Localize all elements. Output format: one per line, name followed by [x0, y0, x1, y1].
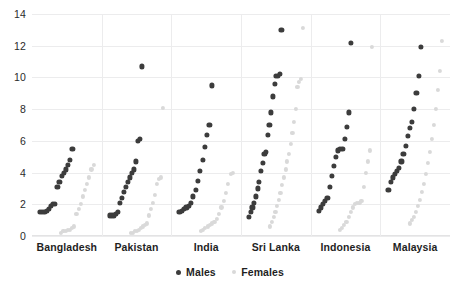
data-point-male [253, 194, 258, 199]
data-point-male [346, 110, 351, 115]
legend-label: Females [241, 266, 284, 278]
data-point-female [424, 172, 428, 176]
data-point-male [265, 132, 270, 137]
data-point-female [359, 199, 363, 203]
data-point-female [273, 210, 277, 214]
data-point-male [202, 145, 207, 150]
data-point-female [285, 159, 289, 163]
data-point-female [292, 120, 296, 124]
data-point-female [76, 207, 80, 211]
legend-item-females[interactable]: Females [232, 266, 284, 278]
data-point-male [205, 132, 210, 137]
gridline-horizontal [32, 236, 450, 237]
data-point-male [63, 167, 68, 172]
y-axis-tick-label: 6 [0, 135, 26, 147]
data-point-female [436, 88, 440, 92]
data-point-male [248, 210, 253, 215]
y-axis-tick-label: 4 [0, 167, 26, 179]
data-point-female [277, 197, 281, 201]
data-point-male [255, 186, 260, 191]
chart-legend: MalesFemales [0, 266, 460, 278]
legend-marker-females-icon [232, 270, 236, 274]
data-point-female [219, 205, 223, 209]
data-point-female [275, 204, 279, 208]
gridline-vertical [171, 14, 172, 236]
data-point-female [364, 170, 368, 174]
data-point-female [272, 215, 276, 219]
data-point-male [119, 195, 124, 200]
data-point-female [440, 39, 444, 43]
y-axis-tick-label: 0 [0, 230, 26, 242]
data-point-male [412, 107, 417, 112]
data-point-female [81, 194, 85, 198]
data-point-female [149, 207, 153, 211]
scatter-chart: 02468101214 BangladeshPakistanIndiaSri L… [0, 0, 460, 288]
data-point-male [193, 187, 198, 192]
data-point-male [207, 122, 212, 127]
data-point-male [121, 189, 126, 194]
data-point-male [57, 179, 62, 184]
data-point-male [125, 179, 130, 184]
data-point-female [282, 175, 286, 179]
category-label-malaysia: Malaysia [393, 241, 438, 253]
data-point-female [368, 148, 372, 152]
data-point-male [115, 210, 120, 215]
data-point-female [294, 107, 298, 111]
data-point-male [399, 159, 404, 164]
data-point-male [348, 40, 353, 45]
gridline-vertical [102, 14, 103, 236]
data-point-female [287, 151, 291, 155]
data-point-female [83, 188, 87, 192]
legend-item-males[interactable]: Males [176, 266, 216, 278]
data-point-female [422, 182, 426, 186]
data-point-male [139, 64, 144, 69]
data-point-male [405, 134, 410, 139]
y-axis-tick-label: 2 [0, 198, 26, 210]
data-point-female [85, 182, 89, 186]
data-point-female [426, 161, 430, 165]
data-point-male [331, 164, 336, 169]
category-label-pakistan: Pakistan [115, 241, 159, 253]
data-point-female [270, 220, 274, 224]
data-point-male [133, 159, 138, 164]
y-axis-tick-label: 10 [0, 71, 26, 83]
y-axis-tick-label: 12 [0, 40, 26, 52]
data-point-male [209, 83, 214, 88]
y-axis-tick-label: 8 [0, 103, 26, 115]
data-point-male [127, 175, 132, 180]
category-axis-labels: BangladeshPakistanIndiaSri LankaIndonesi… [32, 241, 450, 257]
data-point-female [283, 167, 287, 171]
data-point-female [295, 85, 299, 89]
data-point-female [231, 170, 235, 174]
gridline-vertical [380, 14, 381, 236]
data-point-male [68, 157, 73, 162]
data-point-female [159, 175, 163, 179]
data-point-female [290, 131, 294, 135]
data-point-male [340, 146, 345, 151]
data-point-male [66, 162, 71, 167]
data-point-male [191, 194, 196, 199]
data-point-male [327, 184, 332, 189]
data-point-male [401, 151, 406, 156]
gridline-vertical [241, 14, 242, 236]
y-axis-tick-label: 14 [0, 8, 26, 20]
data-point-female [346, 215, 350, 219]
data-point-male [246, 214, 251, 219]
data-point-male [388, 179, 393, 184]
data-point-male [53, 202, 58, 207]
data-point-female [155, 182, 159, 186]
data-point-male [267, 122, 272, 127]
data-point-female [432, 123, 436, 127]
data-point-female [412, 215, 416, 219]
data-point-male [397, 165, 402, 170]
data-point-male [329, 173, 334, 178]
data-point-female [153, 193, 157, 197]
data-point-female [344, 220, 348, 224]
gridline-vertical [311, 14, 312, 236]
legend-marker-males-icon [176, 270, 181, 275]
data-point-male [264, 149, 269, 154]
data-point-female [91, 163, 95, 167]
data-point-female [420, 190, 424, 194]
data-point-female [215, 216, 219, 220]
data-point-female [300, 26, 304, 30]
